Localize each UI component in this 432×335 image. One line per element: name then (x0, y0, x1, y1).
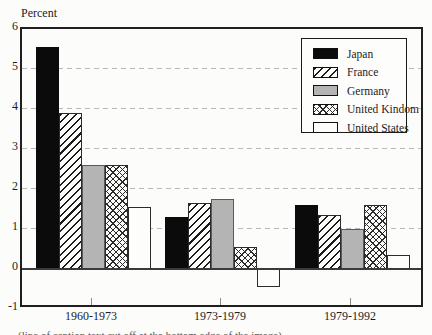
x-tick-1973-1979 (220, 298, 221, 305)
legend-swatch-france (313, 67, 338, 78)
legend-item-germany: Germany (313, 82, 406, 99)
x-tick-1979-1992 (350, 298, 351, 305)
x-category-label-1973-1979: 1973-1979 (175, 309, 265, 324)
legend-swatch-united-states (313, 122, 338, 133)
legend-label-united-states: United States (347, 122, 409, 134)
legend-swatch-united-kindom (313, 104, 338, 115)
zero-axis-line (22, 268, 421, 270)
bar-germany-1979-1992 (341, 229, 364, 269)
bar-france-1960-1973 (59, 113, 82, 269)
legend-item-france: France (313, 64, 406, 81)
x-category-label-1960-1973: 1960-1973 (46, 309, 136, 324)
bar-germany-1960-1973 (82, 165, 105, 269)
y-tick-label-4: 4 (0, 100, 18, 113)
legend-swatch-germany (313, 85, 338, 96)
bar-france-1973-1979 (188, 203, 211, 269)
bar-united-kindom-1979-1992 (364, 205, 387, 269)
bar-france-1979-1992 (318, 215, 341, 269)
bar-united-states-1960-1973 (128, 207, 151, 269)
bar-united-states-1979-1992 (387, 255, 410, 269)
legend-label-germany: Germany (347, 85, 390, 97)
legend-label-france: France (347, 66, 378, 78)
bar-united-states-1973-1979 (257, 269, 280, 287)
y-axis-title: Percent (21, 6, 57, 21)
y-tick-label-0: 0 (0, 260, 18, 273)
productivity-bar-chart: Percent 6543210-1 1960-19731973-19791979… (0, 0, 432, 335)
y-tick-label-2: 2 (0, 180, 18, 193)
legend-label-japan: Japan (347, 48, 373, 60)
y-tick-label--1: -1 (0, 300, 18, 313)
legend: JapanFranceGermanyUnited KindomUnited St… (301, 38, 407, 133)
legend-swatch-japan (313, 48, 338, 59)
x-tick-1960-1973 (91, 298, 92, 305)
legend-label-united-kindom: United Kindom (347, 103, 419, 115)
clipped-caption: (line of caption text cut off at the bot… (18, 328, 428, 335)
gridline-3 (22, 148, 421, 149)
bar-japan-1979-1992 (295, 205, 318, 269)
bar-united-kindom-1960-1973 (105, 165, 128, 269)
bar-united-kindom-1973-1979 (234, 247, 257, 269)
y-tick-label-1: 1 (0, 220, 18, 233)
y-tick-label-6: 6 (0, 20, 18, 33)
bar-germany-1973-1979 (211, 199, 234, 269)
legend-item-united-kindom: United Kindom (313, 101, 406, 118)
y-tick-label-3: 3 (0, 140, 18, 153)
bar-japan-1960-1973 (36, 47, 59, 269)
legend-item-japan: Japan (313, 45, 406, 62)
legend-item-united-states: United States (313, 119, 406, 136)
y-tick-label-5: 5 (0, 60, 18, 73)
x-category-label-1979-1992: 1979-1992 (305, 309, 395, 324)
bar-japan-1973-1979 (165, 217, 188, 269)
